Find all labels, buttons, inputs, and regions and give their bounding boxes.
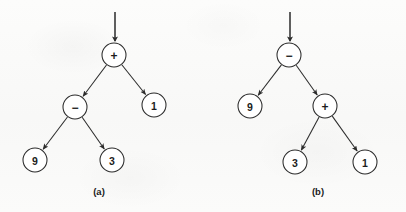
tree-node-a-three[interactable]: 3 <box>100 148 124 172</box>
expression-tree-figure: +−193(a)−9+31(b) <box>0 0 406 212</box>
node-label-b-one: 1 <box>362 157 368 169</box>
edge-b-root-to-b-plus <box>296 65 317 95</box>
tree-node-a-one[interactable]: 1 <box>142 93 166 117</box>
tree-node-b-three[interactable]: 3 <box>283 150 307 174</box>
panel-caption-a: (a) <box>93 186 105 197</box>
node-label-a-nine: 9 <box>32 155 38 167</box>
tree-node-b-one[interactable]: 1 <box>353 150 377 174</box>
figure-canvas: +−193(a)−9+31(b) <box>0 0 406 212</box>
tree-node-b-root[interactable]: − <box>277 43 301 67</box>
tree-node-a-root[interactable]: + <box>102 43 126 67</box>
tree-node-b-plus[interactable]: + <box>313 94 337 118</box>
tree-node-a-minus[interactable]: − <box>63 95 87 119</box>
node-label-a-minus: − <box>71 101 78 115</box>
edge-a-minus-to-a-nine <box>43 117 67 149</box>
edge-a-root-to-a-minus <box>83 65 106 96</box>
edge-b-plus-to-b-one <box>332 116 357 151</box>
node-label-b-nine: 9 <box>247 101 253 113</box>
edge-b-plus-to-b-three <box>301 117 319 150</box>
edge-a-minus-to-a-three <box>82 117 104 149</box>
panel-caption-b: (b) <box>312 186 324 197</box>
panels-layer: +−193(a)−9+31(b) <box>23 12 377 197</box>
tree-panel-b: −9+31(b) <box>238 12 377 197</box>
tree-node-b-nine[interactable]: 9 <box>238 94 262 118</box>
tree-panel-a: +−193(a) <box>23 12 166 197</box>
node-label-a-one: 1 <box>151 100 157 112</box>
node-label-a-three: 3 <box>109 155 115 167</box>
edge-b-root-to-b-nine <box>258 65 281 95</box>
node-label-b-three: 3 <box>292 157 298 169</box>
node-label-b-root: − <box>285 49 292 63</box>
node-label-b-plus: + <box>321 100 328 114</box>
edge-a-root-to-a-one <box>122 65 146 95</box>
tree-node-a-nine[interactable]: 9 <box>23 148 47 172</box>
node-label-a-root: + <box>110 49 117 63</box>
